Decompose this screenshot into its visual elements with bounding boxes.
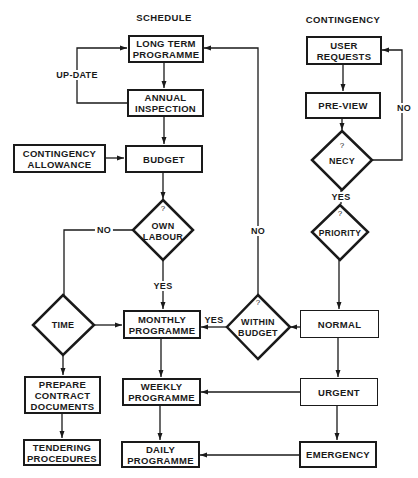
necy-text: NECY <box>329 156 355 167</box>
box-contingency-allowance: CONTINGENCY ALLOWANCE <box>13 144 106 173</box>
label-own-labour-yes: YES <box>152 281 175 291</box>
label-within-budget-yes: YES <box>203 315 226 325</box>
label-own-labour-no: NO <box>95 225 113 235</box>
label-update: UP-DATE <box>54 70 99 80</box>
edge-withinbudget-no-longterm <box>204 48 258 295</box>
schedule-column-title: SCHEDULE <box>136 12 191 23</box>
box-monthly-programme: MONTHLY PROGRAMME <box>123 310 201 339</box>
box-user-requests: USER REQUESTS <box>306 36 382 65</box>
label-necy-yes: YES <box>330 192 353 202</box>
box-prepare-contract-documents: PREPARE CONTRACT DOCUMENTS <box>24 376 101 414</box>
box-normal: NORMAL <box>300 310 379 338</box>
box-annual-inspection: ANNUAL INSPECTION <box>127 89 204 117</box>
box-emergency: EMERGENCY <box>299 441 377 468</box>
box-budget: BUDGET <box>125 145 203 173</box>
box-urgent: URGENT <box>300 378 378 406</box>
box-weekly-programme: WEEKLY PROGRAMME <box>122 378 201 406</box>
within-budget-question-mark: ? <box>256 298 260 307</box>
box-pre-view: PRE-VIEW <box>305 92 381 119</box>
box-tendering-procedures: TENDERING PROCEDURES <box>23 439 101 466</box>
time-text: TIME <box>52 320 75 331</box>
box-long-term-programme: LONG TERM PROGRAMME <box>128 35 204 63</box>
contingency-column-title: CONTINGENCY <box>306 14 381 25</box>
priority-question-mark: ? <box>338 209 342 218</box>
label-within-budget-no: NO <box>249 226 267 236</box>
label-necy-no: NO <box>395 103 413 113</box>
necy-question-mark: ? <box>340 141 344 150</box>
priority-text: PRIORITY <box>319 228 362 239</box>
own-labour-question-mark: ? <box>161 204 165 213</box>
edge-ownlabour-no-time <box>64 230 133 295</box>
box-daily-programme: DAILY PROGRAMME <box>121 441 200 468</box>
own-labour-text: OWN LABOUR <box>143 221 183 243</box>
within-budget-text: WITHIN BUDGET <box>238 317 278 339</box>
